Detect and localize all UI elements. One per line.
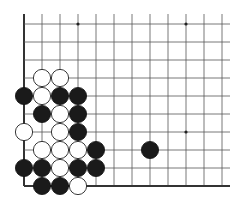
star-point-icon (184, 130, 187, 133)
white-stone[interactable] (51, 123, 68, 140)
go-board[interactable] (0, 0, 241, 203)
black-stone[interactable] (69, 123, 86, 140)
white-stone[interactable] (33, 87, 50, 104)
black-stone[interactable] (15, 87, 32, 104)
black-stone[interactable] (69, 105, 86, 122)
black-stone[interactable] (87, 141, 104, 158)
white-stone[interactable] (51, 69, 68, 86)
white-stone[interactable] (51, 159, 68, 176)
white-stone[interactable] (15, 123, 32, 140)
black-stone[interactable] (33, 105, 50, 122)
white-stone[interactable] (69, 177, 86, 194)
white-stone[interactable] (33, 69, 50, 86)
black-stone[interactable] (69, 87, 86, 104)
black-stone[interactable] (51, 87, 68, 104)
black-stone[interactable] (87, 159, 104, 176)
black-stone[interactable] (51, 177, 68, 194)
black-stone[interactable] (15, 159, 32, 176)
white-stone[interactable] (33, 141, 50, 158)
star-point-icon (76, 22, 79, 25)
white-stone[interactable] (51, 141, 68, 158)
white-stone[interactable] (51, 105, 68, 122)
black-stone[interactable] (33, 177, 50, 194)
black-stone[interactable] (33, 159, 50, 176)
star-point-icon (184, 22, 187, 25)
black-stone[interactable] (141, 141, 158, 158)
white-stone[interactable] (69, 141, 86, 158)
black-stone[interactable] (69, 159, 86, 176)
